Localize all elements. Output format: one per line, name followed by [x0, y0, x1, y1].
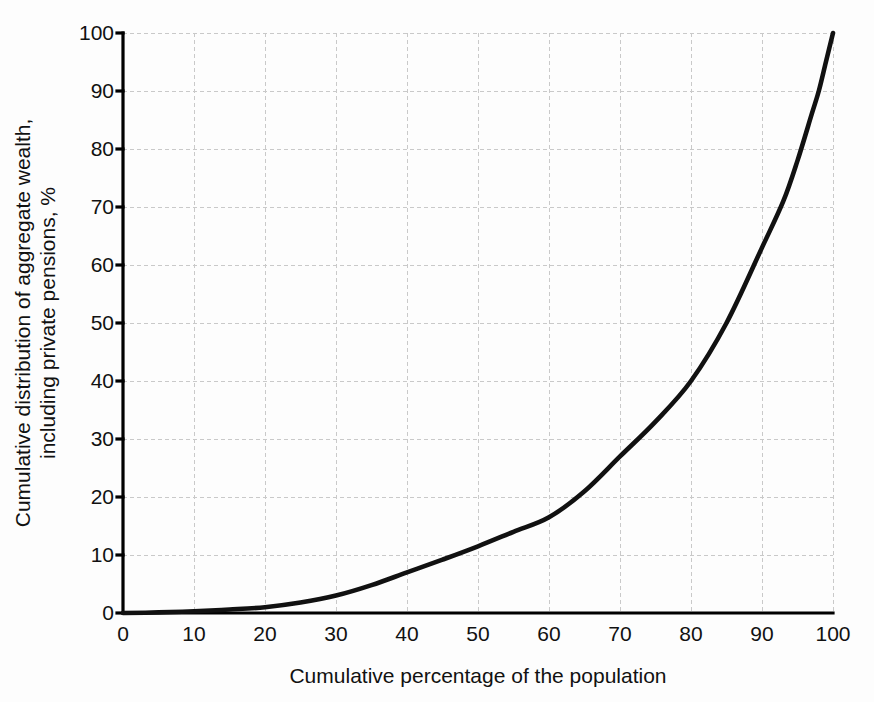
y-tick-0: 0: [102, 601, 114, 624]
chart-figure: 0102030405060708090100 01020304050607080…: [0, 0, 874, 702]
y-tick-100: 100: [79, 21, 114, 44]
x-tick-50: 50: [466, 622, 489, 645]
y-tick-70: 70: [91, 195, 114, 218]
x-tick-100: 100: [815, 622, 850, 645]
y-tick-90: 90: [91, 79, 114, 102]
x-tick-30: 30: [324, 622, 347, 645]
y-tick-60: 60: [91, 253, 114, 276]
y-tick-40: 40: [91, 369, 114, 392]
y-tick-20: 20: [91, 485, 114, 508]
y-axis-title-line2: including private pensions, %: [36, 187, 59, 459]
x-axis-tick-labels: 0102030405060708090100: [117, 622, 850, 645]
x-tick-80: 80: [679, 622, 702, 645]
y-tick-10: 10: [91, 543, 114, 566]
y-tick-30: 30: [91, 427, 114, 450]
lorenz-curve-chart: 0102030405060708090100 01020304050607080…: [0, 0, 874, 702]
x-tick-60: 60: [537, 622, 560, 645]
x-tick-20: 20: [253, 622, 276, 645]
x-tick-0: 0: [117, 622, 129, 645]
y-tick-50: 50: [91, 311, 114, 334]
y-axis-tick-labels: 0102030405060708090100: [79, 21, 123, 624]
x-tick-70: 70: [608, 622, 631, 645]
x-tick-10: 10: [182, 622, 205, 645]
vertical-gridlines: [194, 33, 833, 613]
y-axis-title-line1: Cumulative distribution of aggregate wea…: [11, 119, 34, 528]
x-tick-90: 90: [750, 622, 773, 645]
y-tick-80: 80: [91, 137, 114, 160]
x-axis-title: Cumulative percentage of the population: [289, 664, 666, 687]
x-tick-40: 40: [395, 622, 418, 645]
